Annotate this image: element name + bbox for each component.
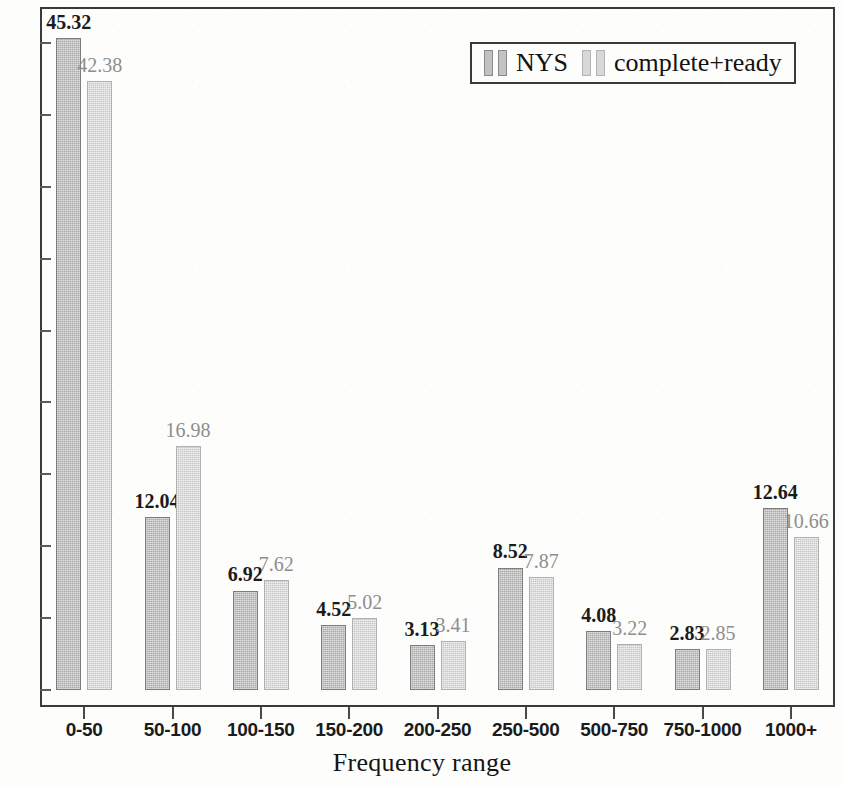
- bar: [87, 81, 112, 690]
- legend-entry: NYS: [484, 48, 568, 78]
- bar-value-label: 10.66: [784, 510, 829, 533]
- legend-label: NYS: [516, 48, 568, 78]
- bar-value-label: 45.32: [46, 11, 91, 34]
- chart-legend: NYScomplete+ready: [470, 42, 796, 84]
- legend-entry: complete+ready: [582, 48, 782, 78]
- bar: [675, 649, 700, 690]
- y-tick-mark: [40, 617, 51, 619]
- x-tick-mark: [613, 707, 615, 719]
- x-tick-mark: [348, 707, 350, 719]
- x-tick-mark: [437, 707, 439, 719]
- legend-swatch-icon: [484, 50, 493, 76]
- bar-value-label: 2.85: [701, 622, 736, 645]
- bar-value-label: 4.08: [581, 604, 616, 627]
- bar: [56, 38, 81, 690]
- legend-swatch-icon: [498, 50, 507, 76]
- x-tick-mark: [790, 707, 792, 719]
- bar-value-label: 3.41: [436, 614, 471, 637]
- legend-swatch-group: [582, 50, 610, 76]
- x-tick-label: 100-150: [227, 719, 295, 741]
- bar: [176, 446, 201, 690]
- bar: [529, 577, 554, 690]
- bar-value-label: 6.92: [228, 563, 263, 586]
- y-tick-mark: [40, 473, 51, 475]
- x-tick-label: 1000+: [765, 719, 817, 741]
- y-tick-mark: [40, 401, 51, 403]
- x-axis-title: Frequency range: [0, 748, 844, 778]
- bar-value-label: 16.98: [166, 419, 211, 442]
- bar-value-label: 42.38: [77, 54, 122, 77]
- y-tick-mark: [40, 42, 51, 44]
- bar: [586, 631, 611, 690]
- bar: [498, 568, 523, 691]
- x-tick-label: 750-1000: [664, 719, 742, 741]
- bar-chart-figure: 051015202530354045 0-5050-100100-150150-…: [0, 0, 844, 786]
- bar: [233, 591, 258, 691]
- x-tick-mark: [83, 707, 85, 719]
- bar: [706, 649, 731, 690]
- x-tick-mark: [702, 707, 704, 719]
- y-tick-mark: [40, 330, 51, 332]
- bar-value-label: 12.64: [753, 481, 798, 504]
- x-tick-mark: [172, 707, 174, 719]
- x-tick-label: 50-100: [144, 719, 201, 741]
- bar: [441, 641, 466, 690]
- bar-value-label: 5.02: [347, 591, 382, 614]
- bar-value-label: 7.87: [524, 550, 559, 573]
- y-tick-mark: [40, 258, 51, 260]
- y-tick-mark: [40, 114, 51, 116]
- bar-value-label: 7.62: [259, 553, 294, 576]
- bar: [352, 618, 377, 690]
- y-tick-mark: [40, 186, 51, 188]
- legend-swatch-group: [484, 50, 512, 76]
- bar: [145, 517, 170, 690]
- bar: [321, 625, 346, 690]
- bar-value-label: 8.52: [493, 540, 528, 563]
- bar-value-label: 12.04: [135, 490, 180, 513]
- x-tick-label: 500-750: [580, 719, 648, 741]
- y-tick-mark: [40, 545, 51, 547]
- x-tick-label: 250-500: [492, 719, 560, 741]
- x-tick-mark: [525, 707, 527, 719]
- y-tick-mark: [40, 689, 51, 691]
- bar: [264, 580, 289, 690]
- x-tick-label: 200-250: [404, 719, 472, 741]
- legend-swatch-icon: [582, 50, 591, 76]
- bar-value-label: 3.13: [405, 618, 440, 641]
- bar-value-label: 4.52: [316, 598, 351, 621]
- bar-value-label: 3.22: [612, 617, 647, 640]
- bar: [763, 508, 788, 690]
- bar: [410, 645, 435, 690]
- x-tick-label: 0-50: [66, 719, 103, 741]
- legend-swatch-icon: [596, 50, 605, 76]
- bar: [617, 644, 642, 690]
- bar: [794, 537, 819, 690]
- legend-label: complete+ready: [614, 48, 782, 78]
- x-tick-mark: [260, 707, 262, 719]
- bar-value-label: 2.83: [670, 622, 705, 645]
- x-tick-label: 150-200: [315, 719, 383, 741]
